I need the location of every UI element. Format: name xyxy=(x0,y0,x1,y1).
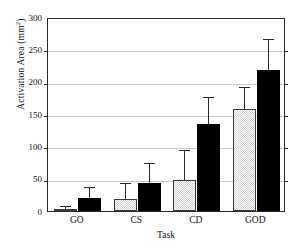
bar-go-black xyxy=(78,198,101,211)
bar-slot xyxy=(197,19,220,211)
bar-slot xyxy=(138,19,161,211)
bar-slot xyxy=(114,19,137,211)
x-axis-title: Task xyxy=(47,230,285,240)
x-axis-tick-label-god: GOD xyxy=(226,214,286,226)
error-bar-cap-god-gray xyxy=(239,87,250,88)
error-bar-cs-black xyxy=(149,164,150,183)
y-axis-tick-label: 50 xyxy=(8,175,42,184)
error-bar-go-gray xyxy=(65,207,66,209)
error-bar-cap-cs-gray xyxy=(120,183,131,184)
y-axis-tick-label: 300 xyxy=(8,14,42,23)
bar-god-black xyxy=(257,70,280,211)
bar-cd-gray xyxy=(173,180,196,211)
x-axis-tick-label-cs: CS xyxy=(107,214,167,226)
error-bar-cap-cs-black xyxy=(144,163,155,164)
y-axis-tick-label: 150 xyxy=(8,111,42,120)
bar-slot xyxy=(233,19,256,211)
bar-group-god xyxy=(227,19,287,211)
bar-series-container xyxy=(48,19,284,211)
plot-area xyxy=(47,18,285,212)
x-axis-tick-label-cd: CD xyxy=(166,214,226,226)
bar-chart-figure: Activation Area (mm2) 050100150200250300… xyxy=(0,0,298,252)
x-axis-tick-label-go: GO xyxy=(47,214,107,226)
bar-cd-black xyxy=(197,124,220,211)
error-bar-go-black xyxy=(89,188,90,198)
y-axis-tick-label: 100 xyxy=(8,143,42,152)
error-bar-cap-go-black xyxy=(84,187,95,188)
error-bar-god-gray xyxy=(244,88,245,109)
error-bar-cd-gray xyxy=(184,151,185,180)
error-bar-cap-cd-black xyxy=(203,97,214,98)
bar-go-gray xyxy=(54,209,77,211)
error-bar-cap-god-black xyxy=(263,39,274,40)
y-axis-tick-label: 250 xyxy=(8,46,42,55)
bar-cs-black xyxy=(138,183,161,211)
error-bar-god-black xyxy=(268,40,269,70)
bar-slot xyxy=(257,19,280,211)
y-axis-tick-label: 0 xyxy=(8,208,42,217)
error-bar-cs-gray xyxy=(125,184,126,200)
bar-slot xyxy=(78,19,101,211)
bar-group-cd xyxy=(167,19,227,211)
y-axis-tick-labels: 050100150200250300 xyxy=(8,0,42,252)
y-axis-tick-label: 200 xyxy=(8,78,42,87)
error-bar-cap-go-gray xyxy=(60,206,71,207)
bar-slot xyxy=(173,19,196,211)
bar-cs-gray xyxy=(114,199,137,211)
bar-group-go xyxy=(48,19,108,211)
error-bar-cd-black xyxy=(208,98,209,124)
bar-slot xyxy=(54,19,77,211)
bar-group-cs xyxy=(108,19,168,211)
bar-god-gray xyxy=(233,109,256,211)
x-axis-tick-labels: GOCSCDGOD xyxy=(47,214,285,230)
error-bar-cap-cd-gray xyxy=(179,150,190,151)
